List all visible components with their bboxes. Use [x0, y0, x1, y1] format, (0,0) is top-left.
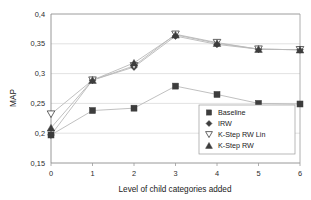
data-point-k-step-rw-lin — [47, 111, 55, 118]
x-tick-label: 6 — [298, 169, 302, 178]
chart-container: 0,150,20,250,30,350,4 0123456 MAP Level … — [0, 0, 311, 200]
data-point-baseline — [297, 101, 303, 107]
x-axis-title: Level of child categories added — [119, 185, 232, 194]
legend-label-baseline: Baseline — [218, 108, 246, 117]
data-point-baseline — [90, 108, 96, 114]
x-axis-tick-labels: 0123456 — [49, 163, 302, 178]
legend-label-irw: IRW — [218, 119, 232, 128]
y-tick-label: 0,25 — [31, 99, 45, 108]
y-tick-label: 0,4 — [35, 10, 45, 19]
x-tick-label: 0 — [49, 169, 53, 178]
series-line-k-step-rw-lin — [51, 34, 300, 114]
x-tick-label: 3 — [173, 169, 177, 178]
x-tick-label: 1 — [90, 169, 94, 178]
data-point-baseline — [173, 83, 179, 89]
legend-label-k-step-rw-lin: K-Step RW Lin — [218, 130, 265, 139]
y-axis-title: MAP — [9, 89, 18, 107]
x-tick-label: 4 — [215, 169, 219, 178]
y-tick-label: 0,35 — [31, 39, 45, 48]
y-axis-tick-labels: 0,150,20,250,30,350,4 — [31, 10, 45, 168]
y-tick-label: 0,3 — [35, 69, 45, 78]
y-tick-label: 0,2 — [35, 129, 45, 138]
legend: BaselineIRWK-Step RW LinK-Step RW — [199, 105, 295, 154]
x-tick-label: 2 — [132, 169, 136, 178]
legend-marker-baseline — [206, 110, 211, 115]
map-vs-child-categories-line-chart: 0,150,20,250,30,350,4 0123456 MAP Level … — [0, 0, 311, 200]
x-tick-label: 5 — [256, 169, 260, 178]
data-point-baseline — [214, 91, 220, 97]
data-point-baseline — [131, 105, 137, 111]
y-tick-label: 0,15 — [31, 159, 45, 168]
legend-label-k-step-rw: K-Step RW — [218, 141, 254, 150]
